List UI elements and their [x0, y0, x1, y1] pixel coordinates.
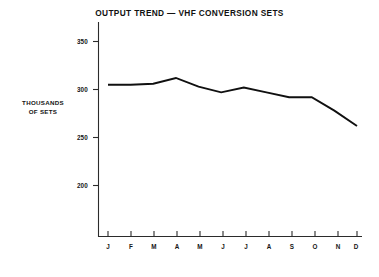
- y-axis-ticks: [93, 42, 99, 186]
- data-series-line: [108, 78, 357, 126]
- plot-area: [0, 0, 379, 277]
- chart-figure: OUTPUT TREND — VHF CONVERSION SETS THOUS…: [0, 0, 379, 277]
- x-axis-ticks: [108, 231, 357, 237]
